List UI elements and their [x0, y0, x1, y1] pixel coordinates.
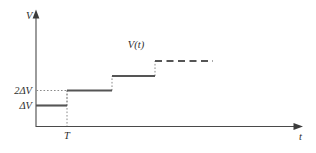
- x-axis-arrowhead: [294, 123, 304, 130]
- x-axis-label: t: [299, 131, 303, 142]
- guide-lines-group: [37, 91, 68, 127]
- y-axis-arrowhead: [33, 10, 40, 19]
- labels-group: V t 2ΔV ΔV T V(t): [14, 10, 303, 142]
- y-tick-label-2dv: 2ΔV: [14, 85, 33, 96]
- x-tick-label-T: T: [64, 130, 71, 141]
- axes-group: [33, 10, 303, 131]
- step-risers-group: [67, 61, 155, 106]
- y-tick-label-dv: ΔV: [18, 100, 33, 111]
- curve-label-vt: V(t): [128, 39, 145, 51]
- step-treads-group: [36, 61, 213, 106]
- staircase-voltage-chart: V t 2ΔV ΔV T V(t): [0, 0, 316, 153]
- y-axis-label: V: [26, 10, 34, 21]
- figure-root: V t 2ΔV ΔV T V(t): [0, 0, 316, 153]
